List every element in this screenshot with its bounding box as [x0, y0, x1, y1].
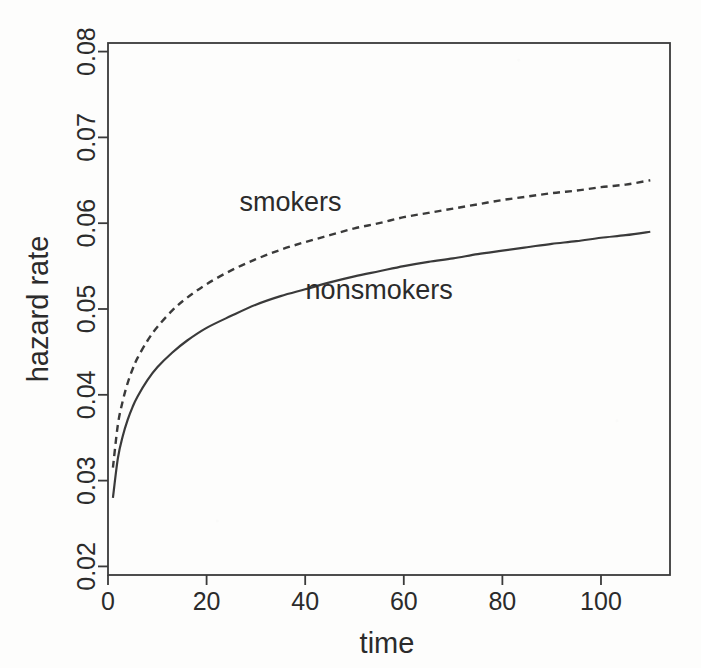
plot-frame	[108, 43, 670, 575]
y-tick-label: 0.06	[72, 199, 100, 248]
hazard-rate-chart: 0204060801000.020.030.040.050.060.070.08…	[0, 0, 701, 668]
x-tick-label: 80	[488, 587, 516, 615]
x-axis: 020406080100	[101, 575, 622, 615]
y-tick-label: 0.07	[72, 113, 100, 162]
y-tick-label: 0.02	[72, 542, 100, 591]
y-tick-label: 0.08	[72, 27, 100, 76]
series-line-smokers	[113, 180, 650, 467]
y-tick-label: 0.03	[72, 456, 100, 505]
x-tick-label: 100	[580, 587, 622, 615]
x-tick-label: 60	[390, 587, 418, 615]
x-axis-title: time	[360, 627, 415, 659]
x-tick-label: 0	[101, 587, 115, 615]
y-tick-label: 0.05	[72, 285, 100, 334]
y-axis-title: hazard rate	[22, 236, 54, 383]
series-label-smokers: smokers	[239, 187, 341, 217]
y-tick-label: 0.04	[72, 370, 100, 419]
x-tick-label: 40	[291, 587, 319, 615]
y-axis: 0.020.030.040.050.060.070.08	[72, 27, 108, 591]
x-tick-label: 20	[193, 587, 221, 615]
series-line-nonsmokers	[113, 232, 650, 498]
series-label-nonsmokers: nonsmokers	[306, 275, 453, 305]
